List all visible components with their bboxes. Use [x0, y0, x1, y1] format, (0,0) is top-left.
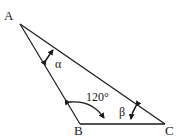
alpha-arc	[46, 50, 53, 60]
vertex-c-label: C	[165, 123, 174, 138]
side-ac	[20, 24, 165, 124]
vertex-b-label: B	[74, 123, 83, 138]
triangle-diagram: A B C α 120° β	[0, 0, 177, 139]
side-ab	[20, 24, 80, 124]
beta-label: β	[119, 105, 125, 119]
angle-b-label: 120°	[86, 90, 109, 104]
beta-arc	[131, 106, 136, 119]
vertex-a-label: A	[4, 8, 14, 23]
alpha-label: α	[55, 57, 62, 71]
